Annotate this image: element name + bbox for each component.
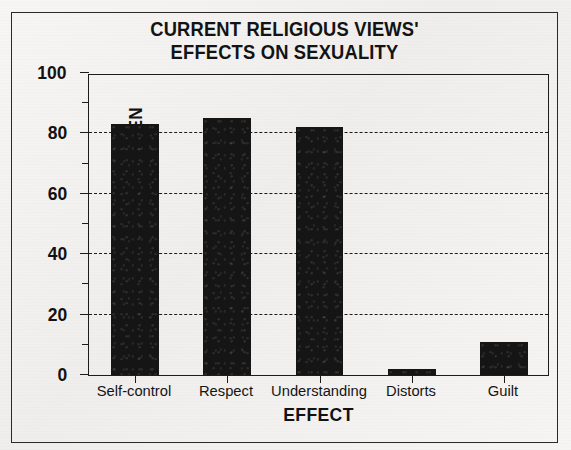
y-tick-minor-70 [82, 163, 89, 164]
y-tick-label-60: 60 [48, 183, 67, 205]
x-axis-title: EFFECT [100, 404, 538, 426]
y-tick-minor-30 [82, 283, 89, 284]
y-tick-0: 0 [80, 374, 89, 375]
y-tick-label-20: 20 [48, 304, 67, 326]
y-tick-label-100: 100 [38, 62, 67, 84]
plot-area: PERCENT OF RELIGIOUS MEN 020406080100 [88, 74, 549, 376]
y-tick-100: 100 [80, 72, 89, 73]
bar-self-control [111, 124, 159, 375]
y-tick-60: 60 [80, 193, 89, 194]
y-tick-label-40: 40 [48, 243, 67, 265]
y-tick-minor-10 [82, 344, 89, 345]
x-axis-label-self-control: Self-control [97, 382, 171, 400]
x-axis-label-understanding: Understanding [271, 382, 367, 400]
y-tick-minor-50 [82, 223, 89, 224]
x-axis-label-respect: Respect [199, 382, 253, 400]
bar-understanding [296, 127, 344, 375]
bar-guilt [480, 342, 528, 375]
y-tick-minor-90 [82, 102, 89, 103]
chart-title: CURRENT RELIGIOUS VIEWS' EFFECTS ON SEXU… [27, 18, 541, 64]
y-tick-label-0: 0 [58, 364, 68, 386]
y-tick-40: 40 [80, 253, 89, 254]
x-axis-label-guilt: Guilt [488, 382, 518, 400]
y-tick-80: 80 [80, 132, 89, 133]
x-axis-label-distorts: Distorts [386, 382, 436, 400]
y-tick-20: 20 [80, 314, 89, 315]
y-tick-label-80: 80 [48, 122, 67, 144]
bar-respect [203, 118, 251, 375]
